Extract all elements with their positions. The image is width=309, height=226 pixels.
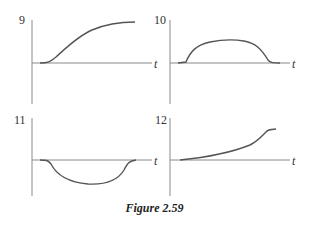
figure-caption: Figure 2.59 — [0, 201, 309, 216]
graph-10-label: 10 — [154, 14, 166, 26]
curve — [180, 129, 276, 160]
graph-9-t-label: t — [154, 58, 157, 70]
graph-10-t-label: t — [292, 58, 295, 70]
curve — [40, 160, 136, 184]
graph-12-label: 12 — [155, 114, 167, 126]
graph-12 — [170, 118, 290, 196]
graph-12-t-label: t — [292, 155, 295, 167]
graph-11 — [32, 118, 152, 196]
curve — [178, 40, 280, 63]
graph-11-label: 11 — [14, 114, 26, 126]
curve — [40, 22, 135, 63]
graph-10 — [170, 20, 290, 104]
graph-11-t-label: t — [154, 155, 157, 167]
graph-9 — [32, 20, 152, 104]
graph-9-label: 9 — [19, 14, 25, 26]
